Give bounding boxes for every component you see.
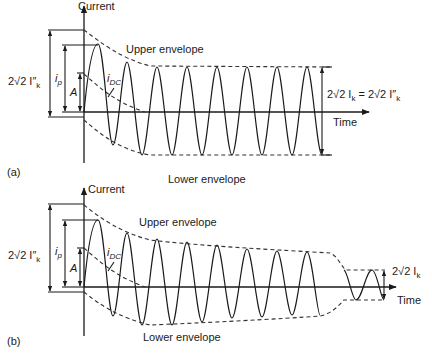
upper-envelope-label-b: Upper envelope [139, 216, 217, 228]
upper-envelope-label-a: Upper envelope [126, 43, 204, 55]
upper-envelope-a [84, 30, 330, 67]
panel-label-a: (a) [7, 166, 20, 178]
label-steady-state-a: 2√2 Ik = 2√2 I″k [327, 88, 401, 103]
label-idc-a: iDC [107, 72, 121, 87]
label-idc-b: iDC [107, 246, 121, 261]
panel-label-b: (b) [7, 335, 20, 347]
label-steady-state-b: 2√2 Ik [392, 265, 421, 280]
time-axis-label-b: Time [397, 294, 421, 306]
panel-a: Current Time 2√2 I″k ip A iDC [7, 0, 401, 185]
y-axis-label-a: Current [78, 0, 115, 12]
lower-envelope-b [84, 292, 384, 325]
label-2sqrt2-ik-a: 2√2 I″k [8, 75, 41, 90]
label-A-b: A [69, 262, 77, 274]
lower-envelope-a [84, 120, 330, 155]
panel-b: Current Time 2√2 I″k ip A iDC 2√2 I [7, 183, 421, 347]
short-circuit-current-wave-b [84, 220, 384, 325]
y-axis-label-b: Current [88, 183, 125, 195]
short-circuit-current-wave-a [84, 44, 322, 155]
label-A-a: A [69, 86, 77, 98]
short-circuit-current-figure: Current Time 2√2 I″k ip A iDC [0, 0, 432, 358]
lower-envelope-label-b: Lower envelope [143, 331, 221, 343]
label-2sqrt2-ik-b: 2√2 I″k [8, 249, 41, 264]
label-ip-b: ip [55, 245, 62, 260]
lower-envelope-label-a: Lower envelope [168, 173, 246, 185]
time-axis-label-a: Time [333, 116, 357, 128]
label-ip-a: ip [55, 72, 62, 87]
